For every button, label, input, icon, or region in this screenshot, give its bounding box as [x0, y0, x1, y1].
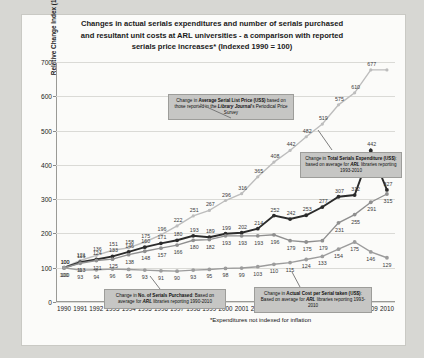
- series-point: [272, 214, 276, 218]
- series-point: [191, 268, 195, 272]
- data-point-label: 129: [383, 262, 392, 268]
- data-point-label: 124: [302, 263, 311, 269]
- data-point-label: 196: [271, 239, 280, 245]
- series-point: [62, 266, 66, 270]
- callout-text-part: Change in: [116, 293, 138, 298]
- series-point: [272, 161, 275, 164]
- data-point-label: 146: [366, 256, 375, 262]
- callout-text-part: libraries reporting 1993-2010: [308, 297, 365, 308]
- data-point-label: 95: [206, 273, 212, 279]
- data-point-label: 575: [335, 96, 344, 102]
- series-point: [288, 217, 292, 221]
- x-tick-label: 1991: [73, 305, 87, 312]
- data-point-label: 677: [367, 61, 376, 67]
- data-point-label: 312: [351, 186, 360, 192]
- data-point-label: 125: [109, 263, 118, 269]
- data-point-label: 442: [367, 141, 376, 147]
- callout-text-part: Library Journal: [218, 104, 251, 109]
- series-point: [304, 213, 308, 217]
- series-point: [127, 268, 131, 272]
- data-point-label: 610: [351, 84, 360, 90]
- data-point-label: 408: [271, 153, 280, 159]
- series-point: [192, 214, 195, 217]
- data-point-label: 251: [190, 207, 199, 213]
- data-point-label: 93: [77, 274, 83, 280]
- data-point-label: 307: [335, 188, 344, 194]
- series-point: [224, 199, 227, 202]
- series-point: [78, 261, 82, 265]
- data-point-label: 255: [351, 219, 360, 225]
- data-point-label: 365: [254, 168, 263, 174]
- series-point: [175, 224, 178, 227]
- series-point: [369, 68, 372, 71]
- series-point: [240, 234, 244, 238]
- x-tick-label: 2010: [380, 305, 394, 312]
- data-point-label: 95: [126, 273, 132, 279]
- data-point-label: 180: [190, 244, 199, 250]
- data-point-label: 99: [239, 272, 245, 278]
- series-point: [256, 175, 259, 178]
- data-point-label: 199: [222, 225, 231, 231]
- data-point-label: 151: [109, 241, 118, 247]
- series-point: [288, 261, 292, 265]
- series-point: [385, 188, 389, 192]
- series-point: [191, 234, 195, 238]
- chart-title-line-1: Changes in actual serials expenditures a…: [26, 18, 398, 30]
- series-point: [143, 249, 147, 253]
- series-point: [353, 193, 357, 197]
- cost-per-serial-callout: Change in Actual Cost per Serial taken (…: [254, 287, 372, 313]
- series-point: [224, 267, 228, 271]
- footnote-text: *Expenditures not indexed for inflation: [210, 317, 311, 323]
- data-point-label: 133: [109, 247, 118, 253]
- series-point: [321, 122, 324, 125]
- data-point-label: 222: [174, 217, 183, 223]
- series-point: [175, 269, 179, 273]
- data-point-label: 179: [287, 245, 296, 251]
- data-point-label: 100: [61, 259, 70, 265]
- series-point: [159, 241, 163, 245]
- series-point: [353, 91, 356, 94]
- series-point: [337, 221, 341, 225]
- data-point-label: 133: [318, 260, 327, 266]
- data-point-label: 171: [158, 234, 167, 240]
- series-point: [320, 255, 324, 259]
- chart-title-line-2: and resultant unit costs at ARL universi…: [26, 30, 398, 42]
- callout-text-part: Change in: [176, 98, 198, 103]
- data-point-label: 277: [319, 198, 328, 204]
- y-tick-label: 100: [41, 264, 52, 271]
- data-point-label: 157: [158, 252, 167, 258]
- data-point-label: 202: [238, 224, 247, 230]
- data-point-label: 315: [384, 198, 393, 204]
- callout-text-part: ARL: [143, 299, 152, 304]
- callout-text-part: Change in: [305, 156, 327, 161]
- y-tick-label: 600: [41, 93, 52, 100]
- chart-page: Changes in actual serials expenditures a…: [0, 0, 424, 358]
- data-point-label: 327: [384, 181, 393, 187]
- callout-text-part: ARL: [350, 162, 359, 167]
- data-point-label: 267: [206, 201, 215, 207]
- callout-text-part: Change in: [264, 291, 286, 296]
- x-tick-label: 2001: [235, 305, 249, 312]
- series-point: [272, 262, 276, 266]
- series-point: [94, 259, 98, 263]
- data-point-label: 110: [270, 268, 278, 274]
- data-point-label: 166: [174, 249, 183, 255]
- series-point: [208, 209, 211, 212]
- callout-text-part: ARL: [306, 297, 315, 302]
- series-point: [353, 240, 357, 244]
- series-point: [337, 103, 340, 106]
- data-point-label: 175: [350, 246, 359, 252]
- series-point: [288, 149, 291, 152]
- data-point-label: 193: [254, 240, 263, 246]
- data-point-label: 146: [125, 243, 134, 249]
- data-point-label: 231: [335, 227, 344, 233]
- y-tick-label: 200: [41, 230, 52, 237]
- data-point-label: 93: [190, 274, 196, 280]
- data-point-label: 138: [125, 259, 134, 265]
- data-point-label: 182: [206, 244, 215, 250]
- series-point: [143, 245, 147, 249]
- series-point: [305, 135, 308, 138]
- series-point: [175, 243, 179, 247]
- series-point: [304, 240, 308, 244]
- data-point-label: 482: [303, 128, 312, 134]
